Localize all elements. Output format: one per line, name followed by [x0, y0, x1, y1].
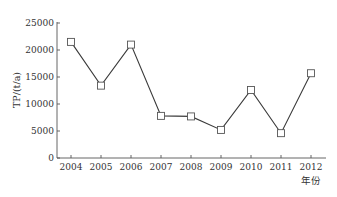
data-point-marker — [218, 126, 225, 133]
line-chart: 0500010000150002000025000 20042005200620… — [0, 0, 337, 197]
x-tick-label: 2012 — [300, 162, 323, 172]
data-point-marker — [128, 41, 135, 48]
x-tick-label: 2007 — [150, 162, 173, 172]
x-tick-label: 2008 — [180, 162, 203, 172]
y-tick-label: 5000 — [31, 126, 54, 136]
data-series-markers — [68, 38, 315, 136]
data-point-marker — [188, 113, 195, 120]
x-tick-label: 2011 — [270, 162, 293, 172]
y-axis-title: TP/(t/a) — [11, 72, 22, 108]
x-tick-label: 2006 — [120, 162, 143, 172]
y-tick-label: 0 — [48, 153, 54, 163]
data-point-marker — [278, 130, 285, 137]
data-point-marker — [248, 86, 255, 93]
y-axis: 0500010000150002000025000 — [25, 18, 60, 163]
y-tick-label: 15000 — [25, 72, 54, 82]
data-point-marker — [158, 112, 165, 119]
x-tick-label: 2004 — [60, 162, 83, 172]
x-axis-title: 年份 — [301, 175, 321, 186]
x-tick-label: 2005 — [90, 162, 113, 172]
data-point-marker — [98, 82, 105, 89]
x-tick-label: 2010 — [240, 162, 263, 172]
y-tick-label: 10000 — [25, 99, 54, 109]
y-tick-label: 25000 — [25, 18, 54, 28]
data-point-marker — [308, 70, 315, 77]
data-point-marker — [68, 38, 75, 45]
x-tick-label: 2009 — [210, 162, 233, 172]
x-axis: 200420052006200720082009201020112012 — [57, 155, 326, 172]
y-tick-label: 20000 — [25, 45, 54, 55]
